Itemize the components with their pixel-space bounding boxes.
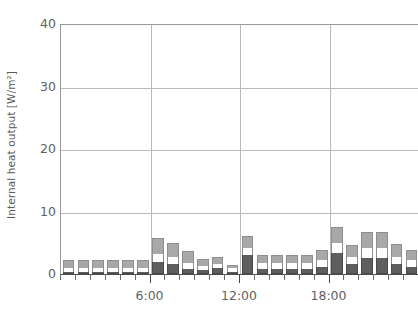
bar bbox=[78, 260, 90, 274]
bar bbox=[152, 238, 164, 274]
bar bbox=[316, 250, 328, 274]
bar bbox=[197, 259, 209, 274]
x-axis-major-tick bbox=[329, 274, 330, 283]
bar-segment-lower-segment bbox=[331, 253, 343, 274]
bar bbox=[301, 255, 313, 274]
bar-segment-upper-segment bbox=[331, 227, 343, 244]
bar-segment-upper-segment bbox=[301, 255, 313, 263]
bar-segment-middle-segment bbox=[242, 248, 254, 256]
bar bbox=[227, 265, 239, 274]
bar bbox=[182, 251, 194, 274]
bar-segment-lower-segment bbox=[346, 264, 358, 274]
bar bbox=[122, 260, 134, 274]
bar-segment-lower-segment bbox=[167, 264, 179, 274]
bar-segment-upper-segment bbox=[122, 260, 134, 268]
bar-segment-upper-segment bbox=[212, 257, 224, 264]
x-axis-minor-tick bbox=[75, 274, 76, 280]
bar bbox=[92, 260, 104, 274]
bar-segment-lower-segment bbox=[361, 258, 373, 274]
x-axis-tick-label: 18:00 bbox=[310, 288, 346, 303]
x-axis-minor-tick bbox=[284, 274, 285, 280]
bar-segment-upper-segment bbox=[391, 244, 403, 257]
bar-segment-upper-segment bbox=[361, 232, 373, 248]
y-axis-tick-labels: 010203040 bbox=[16, 0, 56, 321]
bar-segment-upper-segment bbox=[346, 245, 358, 257]
bar-segment-middle-segment bbox=[316, 260, 328, 268]
bar-series-group bbox=[61, 25, 418, 274]
bar-segment-lower-segment bbox=[391, 264, 403, 274]
bar bbox=[137, 260, 149, 274]
bar-segment-upper-segment bbox=[197, 259, 209, 266]
bar bbox=[376, 232, 388, 274]
bar-segment-middle-segment bbox=[331, 243, 343, 253]
bar-segment-middle-segment bbox=[346, 257, 358, 265]
bar-segment-upper-segment bbox=[78, 260, 90, 268]
bar bbox=[242, 236, 254, 274]
bar-segment-lower-segment bbox=[376, 258, 388, 274]
x-axis-minor-tick bbox=[343, 274, 344, 280]
bar-segment-upper-segment bbox=[63, 260, 75, 268]
bar bbox=[107, 260, 119, 274]
bar-segment-middle-segment bbox=[361, 248, 373, 257]
bar-segment-upper-segment bbox=[406, 250, 418, 260]
x-axis-minor-tick bbox=[373, 274, 374, 280]
bar-segment-lower-segment bbox=[406, 267, 418, 275]
bar-segment-upper-segment bbox=[242, 236, 254, 248]
bar-segment-upper-segment bbox=[286, 255, 298, 263]
bar-segment-upper-segment bbox=[257, 255, 269, 263]
bar-segment-upper-segment bbox=[92, 260, 104, 268]
y-axis-tick-label: 10 bbox=[20, 205, 56, 218]
bar-segment-upper-segment bbox=[271, 255, 283, 263]
x-axis-minor-tick bbox=[194, 274, 195, 280]
x-axis-major-tick bbox=[239, 274, 240, 283]
x-axis-minor-tick bbox=[388, 274, 389, 280]
bar-segment-upper-segment bbox=[137, 260, 149, 268]
bar-segment-upper-segment bbox=[167, 243, 179, 257]
x-axis-minor-tick bbox=[254, 274, 255, 280]
x-axis-minor-tick bbox=[179, 274, 180, 280]
y-axis-tick-label: 20 bbox=[20, 143, 56, 156]
x-axis-minor-tick bbox=[135, 274, 136, 280]
bar bbox=[63, 260, 75, 274]
bar-segment-middle-segment bbox=[391, 257, 403, 265]
x-axis-minor-tick bbox=[164, 274, 165, 280]
x-axis-minor-tick bbox=[105, 274, 106, 280]
bar bbox=[361, 232, 373, 274]
bar bbox=[286, 255, 298, 274]
bar bbox=[331, 227, 343, 275]
x-axis-minor-tick bbox=[358, 274, 359, 280]
bar-segment-upper-segment bbox=[182, 251, 194, 263]
x-axis-minor-tick bbox=[224, 274, 225, 280]
plot-area bbox=[60, 24, 418, 274]
bar bbox=[271, 255, 283, 274]
bar bbox=[257, 255, 269, 274]
x-axis-minor-tick bbox=[90, 274, 91, 280]
x-axis-minor-tick bbox=[299, 274, 300, 280]
bar-segment-lower-segment bbox=[152, 262, 164, 275]
y-axis-tick-label: 40 bbox=[20, 18, 56, 31]
x-axis-minor-tick bbox=[403, 274, 404, 280]
x-axis-major-tick bbox=[150, 274, 151, 283]
x-axis-minor-tick bbox=[120, 274, 121, 280]
bar-segment-upper-segment bbox=[376, 232, 388, 248]
y-axis-tick-label: 30 bbox=[20, 80, 56, 93]
x-axis-tick-label: 12:00 bbox=[221, 288, 257, 303]
bar-segment-upper-segment bbox=[316, 250, 328, 260]
bar bbox=[212, 257, 224, 274]
bar-segment-middle-segment bbox=[167, 257, 179, 265]
chart-container: Internal heat output [W/m²] 010203040 6:… bbox=[0, 0, 418, 321]
bar bbox=[391, 244, 403, 274]
bar-segment-lower-segment bbox=[316, 267, 328, 274]
x-axis-minor-tick bbox=[209, 274, 210, 280]
y-axis-tick-label: 0 bbox=[20, 268, 56, 281]
x-axis-minor-tick bbox=[60, 274, 61, 280]
x-axis-minor-tick bbox=[314, 274, 315, 280]
bar bbox=[406, 250, 418, 274]
bar-segment-middle-segment bbox=[376, 248, 388, 257]
x-axis-minor-tick bbox=[269, 274, 270, 280]
bar-segment-upper-segment bbox=[152, 238, 164, 254]
bar bbox=[167, 243, 179, 274]
bar-segment-middle-segment bbox=[152, 254, 164, 262]
x-axis-tick-label: 6:00 bbox=[135, 288, 163, 303]
bar bbox=[346, 245, 358, 274]
